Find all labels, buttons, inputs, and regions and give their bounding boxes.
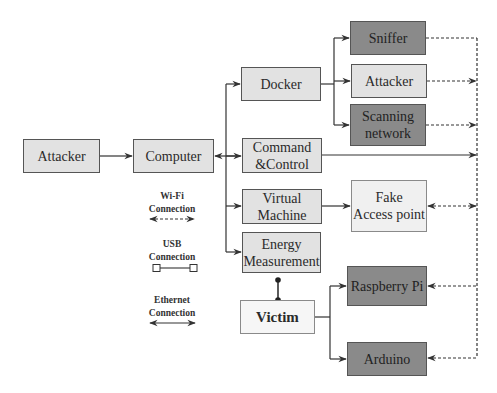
node-label-line1: Scanning [362, 108, 414, 125]
legend-ethernet: Ethernet Connection [142, 294, 202, 320]
node-label: Attacker [365, 73, 413, 90]
node-label: Sniffer [369, 30, 408, 47]
node-victim: Victim [240, 300, 315, 334]
legend-usb-line2: Connection [142, 251, 202, 264]
node-label-line2: Measurement [243, 253, 319, 270]
node-energy-measurement: Energy Measurement [242, 232, 321, 273]
node-label-line2: network [365, 125, 411, 142]
node-attacker-source: Attacker [23, 139, 100, 173]
legend-ethernet-line1: Ethernet [142, 294, 202, 307]
node-label: Raspberry Pi [351, 278, 424, 295]
attack-testbed-diagram: Attacker Computer Docker Command &Contro… [0, 0, 497, 393]
node-label-line1: Fake [375, 189, 402, 206]
node-label-line2: Machine [258, 207, 307, 224]
legend-usb-line1: USB [142, 238, 202, 251]
node-label-line1: Virtual [263, 190, 302, 207]
node-computer: Computer [133, 139, 214, 173]
node-label: Computer [146, 148, 202, 165]
legend-wifi-line1: Wi-Fi [142, 190, 202, 203]
node-label-line2: Access point [353, 206, 425, 223]
legend-usb: USB Connection [142, 238, 202, 264]
node-label: Docker [260, 76, 301, 93]
node-attacker-container: Attacker [351, 64, 427, 98]
node-label: Arduino [364, 351, 411, 368]
node-virtual-machine: Virtual Machine [242, 189, 322, 224]
node-command-control: Command &Control [242, 138, 322, 173]
legend-ethernet-line2: Connection [142, 307, 202, 320]
node-raspberry-pi: Raspberry Pi [347, 266, 427, 306]
node-label: Attacker [37, 148, 85, 165]
node-fake-access-point: Fake Access point [351, 180, 427, 232]
node-label-line1: Command [253, 139, 311, 156]
node-arduino: Arduino [347, 342, 427, 376]
node-label: Victim [256, 309, 299, 326]
node-label-line1: Energy [261, 236, 301, 253]
legend-wifi: Wi-Fi Connection [142, 190, 202, 216]
node-docker: Docker [241, 67, 321, 101]
node-label-line2: &Control [255, 156, 309, 173]
node-scanning-network: Scanning network [350, 104, 426, 146]
node-sniffer: Sniffer [350, 21, 426, 55]
usb-link-energy-victim [275, 277, 281, 303]
legend-wifi-line2: Connection [142, 203, 202, 216]
